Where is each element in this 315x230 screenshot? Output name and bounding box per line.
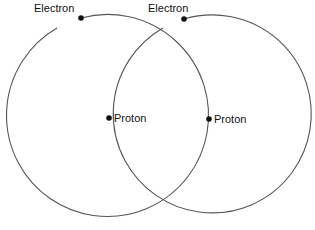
left-proton-label: Proton xyxy=(114,112,146,124)
atom-diagram: Electron Electron Proton Proton xyxy=(0,0,315,230)
right-electron-label: Electron xyxy=(148,2,188,14)
left-orbit xyxy=(7,14,209,216)
left-electron-dot xyxy=(78,15,84,21)
left-proton-dot xyxy=(106,115,112,121)
right-proton-label: Proton xyxy=(214,113,246,125)
right-electron-dot xyxy=(181,16,187,22)
left-electron-label: Electron xyxy=(34,2,74,14)
right-proton-dot xyxy=(206,116,212,122)
